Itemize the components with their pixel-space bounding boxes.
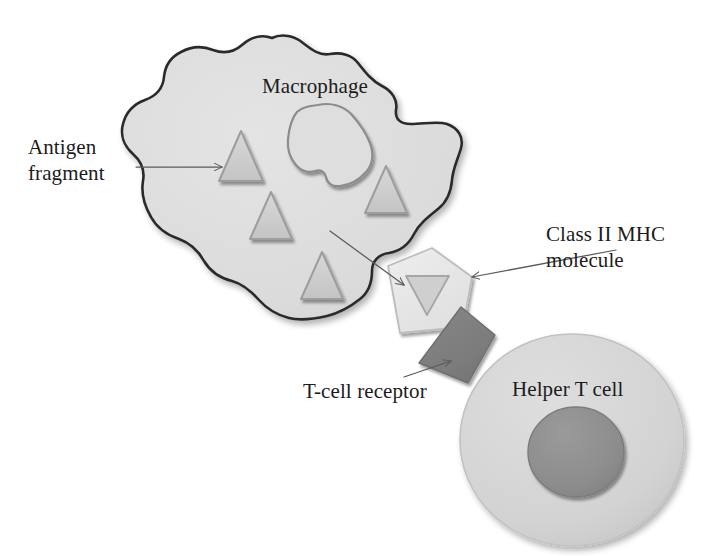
label-macrophage: Macrophage (262, 74, 368, 100)
helper-t-cell-nucleus (528, 407, 624, 497)
diagram-canvas: Antigen fragment Macrophage Class II MHC… (0, 0, 723, 556)
label-helper-t-cell: Helper T cell (512, 377, 623, 403)
helper-t-cell[interactable] (460, 334, 684, 546)
label-class-ii-mhc-molecule: Class II MHC molecule (546, 222, 665, 273)
label-antigen-fragment: Antigen fragment (28, 135, 105, 186)
label-t-cell-receptor: T-cell receptor (303, 379, 427, 405)
